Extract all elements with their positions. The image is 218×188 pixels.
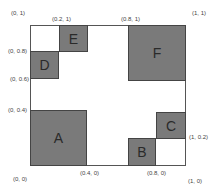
- diagram-canvas: A B C D E F (0, 1) (0.2, 1) (0.8, 1) (1,…: [0, 0, 218, 188]
- coord-label: (0, 0): [13, 176, 27, 182]
- coord-label: (1, 1): [192, 10, 206, 16]
- coord-label: (0.4, 0): [80, 170, 99, 176]
- rect-b: B: [128, 138, 156, 166]
- rect-c: C: [156, 112, 186, 139]
- coord-label: (1, 0.2): [189, 134, 208, 140]
- rect-e-label: E: [69, 31, 78, 47]
- coord-label: (0.8, 1): [121, 16, 140, 22]
- rect-a-label: A: [54, 130, 63, 146]
- rect-e: E: [59, 25, 88, 52]
- coord-label: (0.2, 1): [52, 16, 71, 22]
- rect-a: A: [30, 110, 87, 166]
- coord-label: (0, 1): [11, 10, 25, 16]
- coord-label: (0, 0.4): [8, 107, 27, 113]
- rect-f-label: F: [153, 45, 162, 61]
- coord-label: (0, 0.8): [8, 48, 27, 54]
- rect-d: D: [30, 51, 59, 79]
- rect-d-label: D: [39, 57, 49, 73]
- rect-f: F: [128, 25, 186, 81]
- coord-label: (1, 0): [188, 178, 202, 184]
- coord-label: (0, 0.6): [10, 76, 29, 82]
- rect-c-label: C: [166, 118, 176, 134]
- rect-b-label: B: [137, 144, 146, 160]
- coord-label: (0.8, 0): [147, 170, 166, 176]
